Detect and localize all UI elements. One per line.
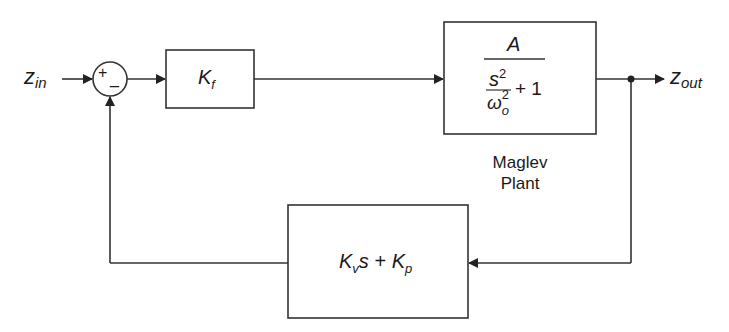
plus-sign: + — [98, 64, 107, 82]
plant-numerator: A — [507, 33, 520, 56]
plant-s-exp: 2 — [499, 66, 506, 81]
plant-plus-one: + 1 — [515, 78, 542, 100]
plant-caption-line1: Maglev — [480, 152, 560, 173]
feedback-plus: + — [374, 250, 386, 272]
minus-sign: _ — [110, 70, 119, 88]
output-signal-sub: out — [681, 74, 702, 91]
plant-caption: Maglev Plant — [480, 152, 560, 194]
plant-omega-sub: o — [502, 103, 509, 118]
plant-omega: ω — [487, 92, 502, 113]
plant-caption-line2: Plant — [480, 173, 560, 194]
input-signal-base: z — [24, 64, 35, 89]
diagram-canvas — [0, 0, 729, 332]
plant-omega-exp: 2 — [502, 87, 509, 102]
output-signal-base: z — [670, 64, 681, 89]
feedback-label: Kvs + Kp — [339, 250, 412, 276]
plant-s: s — [489, 68, 499, 90]
kv-var: s — [359, 250, 369, 272]
input-signal-label: zin — [24, 64, 47, 91]
kf-base: K — [198, 66, 211, 88]
input-signal-sub: in — [35, 74, 47, 91]
kp-base: K — [392, 250, 405, 272]
kf-label: Kf — [198, 66, 215, 92]
kf-sub: f — [211, 77, 215, 92]
output-junction-dot — [628, 76, 635, 83]
kv-base: K — [339, 250, 352, 272]
output-signal-label: zout — [670, 64, 702, 91]
kp-sub: p — [405, 261, 412, 276]
plant-inner-den: ω2o — [487, 92, 512, 114]
